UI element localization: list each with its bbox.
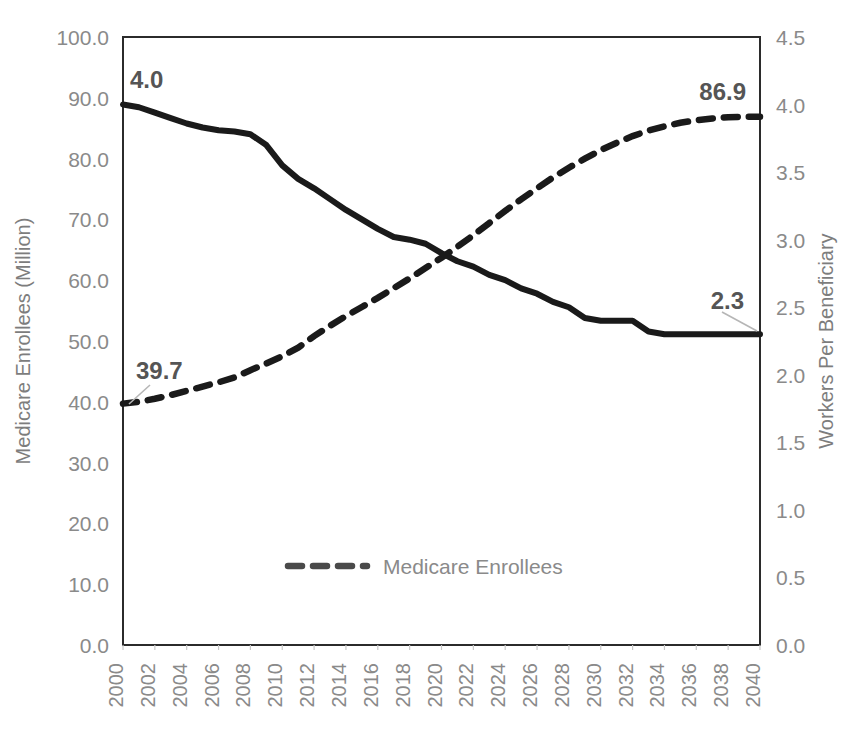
left-tick-label: 0.0 <box>80 634 109 657</box>
left-tick-label: 80.0 <box>68 148 109 171</box>
left-tick-label: 10.0 <box>68 573 109 596</box>
left-tick-label: 100.0 <box>56 26 109 49</box>
series-line-workers-per-beneficiary <box>123 105 760 335</box>
left-tick-label: 20.0 <box>68 512 109 535</box>
right-y-axis-ticks: 0.00.51.01.52.02.53.03.54.04.5 <box>776 26 805 657</box>
chart-canvas: 0.010.020.030.040.050.060.070.080.090.01… <box>0 0 853 729</box>
right-axis-title: Workers Per Beneficiary <box>815 233 837 448</box>
right-tick-label: 1.0 <box>776 499 805 522</box>
x-tick-label: 2002 <box>137 663 159 708</box>
right-tick-label: 4.0 <box>776 94 805 117</box>
x-tick-label: 2014 <box>328 663 350 708</box>
annotation-end-enrollees: 86.9 <box>699 78 746 105</box>
x-tick-label: 2038 <box>710 663 732 708</box>
annotation-start-workers: 4.0 <box>130 66 163 93</box>
left-tick-label: 70.0 <box>68 208 109 231</box>
x-tick-label: 2008 <box>232 663 254 708</box>
x-tick-label: 2034 <box>646 663 668 708</box>
right-tick-label: 2.0 <box>776 364 805 387</box>
left-tick-label: 50.0 <box>68 330 109 353</box>
x-tick-label: 2020 <box>424 663 446 708</box>
x-tick-label: 2018 <box>392 663 414 708</box>
annotation-end-workers: 2.3 <box>711 287 744 314</box>
x-tick-label: 2006 <box>201 663 223 708</box>
x-tick-label: 2030 <box>583 663 605 708</box>
right-tick-label: 3.0 <box>776 229 805 252</box>
x-axis-ticks: 2000200220042006200820102012201420162018… <box>105 663 764 708</box>
x-tick-label: 2032 <box>615 663 637 708</box>
left-tick-label: 90.0 <box>68 87 109 110</box>
annotation-start-enrollees: 39.7 <box>136 357 183 384</box>
series-line-medicare-enrollees <box>123 117 760 404</box>
right-tick-label: 4.5 <box>776 26 805 49</box>
left-y-axis-ticks: 0.010.020.030.040.050.060.070.080.090.01… <box>56 26 109 657</box>
right-tick-label: 0.5 <box>776 566 805 589</box>
legend-label-medicare-enrollees: Medicare Enrollees <box>383 555 563 578</box>
right-tick-label: 2.5 <box>776 296 805 319</box>
x-tick-label: 2028 <box>551 663 573 708</box>
chart-container: 0.010.020.030.040.050.060.070.080.090.01… <box>0 0 853 729</box>
x-tick-label: 2026 <box>519 663 541 708</box>
leader-line-2-3 <box>722 312 757 331</box>
annotation-leader-lines <box>129 312 757 404</box>
x-tick-label: 2022 <box>455 663 477 708</box>
right-tick-label: 3.5 <box>776 161 805 184</box>
right-tick-label: 0.0 <box>776 634 805 657</box>
x-tick-label: 2004 <box>169 663 191 708</box>
x-tick-label: 2024 <box>487 663 509 708</box>
legend: Medicare Enrollees <box>288 555 563 578</box>
right-tick-label: 1.5 <box>776 431 805 454</box>
x-tick-label: 2010 <box>264 663 286 708</box>
x-axis-tick-marks <box>123 645 760 650</box>
x-tick-label: 2000 <box>105 663 127 708</box>
left-tick-label: 40.0 <box>68 391 109 414</box>
left-tick-label: 30.0 <box>68 452 109 475</box>
left-tick-label: 60.0 <box>68 269 109 292</box>
x-tick-label: 2012 <box>296 663 318 708</box>
x-tick-label: 2040 <box>742 663 764 708</box>
left-axis-title: Medicare Enrollees (Million) <box>12 218 34 465</box>
x-tick-label: 2016 <box>360 663 382 708</box>
x-tick-label: 2036 <box>678 663 700 708</box>
